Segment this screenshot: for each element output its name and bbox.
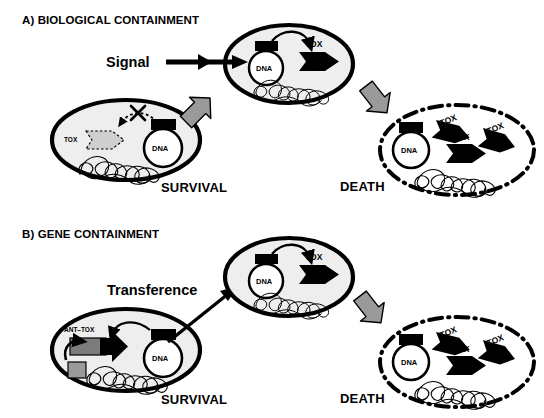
panel-b-induced-tox-label: TOX: [305, 252, 322, 262]
panel-a-title: A) BIOLOGICAL CONTAINMENT: [22, 14, 199, 26]
figure-canvas: A) BIOLOGICAL CONTAINMENT Signal TOX DNA…: [0, 0, 544, 418]
panel-b-death-tox-label-2: TOX: [452, 344, 469, 354]
panel-b-survival-dna-label: DNA: [152, 354, 168, 363]
panel-a-induced-tox-label: TOX: [305, 39, 322, 49]
panel-a-induced-dna-label: DNA: [256, 64, 272, 73]
panel-b-survival-label: SURVIVAL: [161, 392, 227, 407]
panel-b-operon-label: ANT–TOX: [64, 326, 94, 333]
panel-a-death-label: DEATH: [340, 179, 385, 194]
block-arrow-icon-b-right: [348, 287, 393, 332]
panel-a-survival-dna-label: DNA: [152, 144, 168, 153]
diagram-vector-layer: [0, 0, 544, 418]
panel-b-title: B) GENE CONTAINMENT: [22, 228, 159, 240]
signal-label: Signal: [106, 54, 150, 70]
panel-a-survival-tox-label: TOX: [64, 136, 77, 143]
panel-a-induced-cell: [225, 25, 353, 106]
panel-b-induced-dna-label: DNA: [256, 277, 272, 286]
panel-b-induced-cell: [225, 238, 353, 319]
panel-a-death-dna-label: DNA: [401, 146, 417, 155]
panel-b-death-label: DEATH: [340, 391, 385, 406]
block-arrow-icon-a-right: [354, 77, 399, 122]
transference-label: Transference: [107, 282, 197, 298]
panel-a-survival-label: SURVIVAL: [161, 180, 227, 195]
panel-b-death-dna-label: DNA: [401, 358, 417, 367]
panel-b-survival-cell: [52, 309, 200, 394]
panel-a-death-tox-label-2: TOX: [452, 132, 469, 142]
